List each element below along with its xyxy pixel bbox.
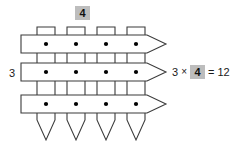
intersection-dot <box>104 102 108 106</box>
array-model-figure: 4 3 <box>0 0 243 144</box>
horizontal-arrow-row-3 <box>21 95 166 113</box>
horizontal-arrow-row-2 <box>21 63 166 81</box>
equation-factor-a: 3 <box>172 67 178 78</box>
intersection-dot <box>44 42 48 46</box>
intersection-dot <box>134 42 138 46</box>
multiplication-sign-icon: × <box>181 67 187 77</box>
horizontal-arrow-row-1 <box>21 35 166 53</box>
intersection-dot <box>104 70 108 74</box>
equation: 3 × 4 = 12 <box>172 65 230 79</box>
intersection-dot <box>104 42 108 46</box>
equals-sign-icon: = <box>208 67 214 78</box>
intersection-dot <box>74 70 78 74</box>
intersection-dot <box>134 70 138 74</box>
intersection-dot <box>44 70 48 74</box>
intersection-dot <box>134 102 138 106</box>
intersection-dot <box>74 102 78 106</box>
intersection-dot <box>44 102 48 106</box>
equation-product: 12 <box>217 67 229 78</box>
equation-factor-b-highlight: 4 <box>190 65 205 79</box>
intersection-dot <box>74 42 78 46</box>
horizontal-arrow-group <box>21 35 166 113</box>
